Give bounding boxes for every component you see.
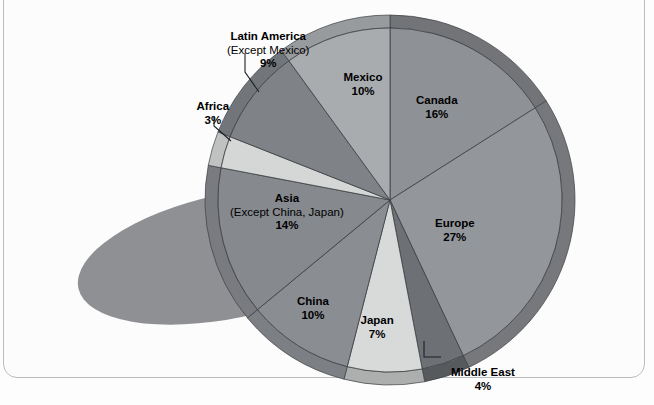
pie-label-mexico: Mexico10% bbox=[344, 71, 383, 98]
pie-label-japan: Japan7% bbox=[361, 314, 394, 341]
pie-label-europe: Europe27% bbox=[435, 217, 475, 244]
pie-label-africa: Africa3% bbox=[197, 100, 230, 127]
pie-label-canada: Canada16% bbox=[416, 94, 458, 121]
pie-label-latin-america: Latin America(Except Mexico)9% bbox=[227, 30, 309, 71]
pie-label-asia: Asia(Except China, Japan)14% bbox=[230, 192, 344, 233]
pie-label-middle-east: Middle East4% bbox=[451, 366, 515, 393]
chart-canvas: Canada16%Europe27%Middle East4%Japan7%Ch… bbox=[0, 0, 654, 405]
pie-label-china: China10% bbox=[297, 295, 329, 322]
